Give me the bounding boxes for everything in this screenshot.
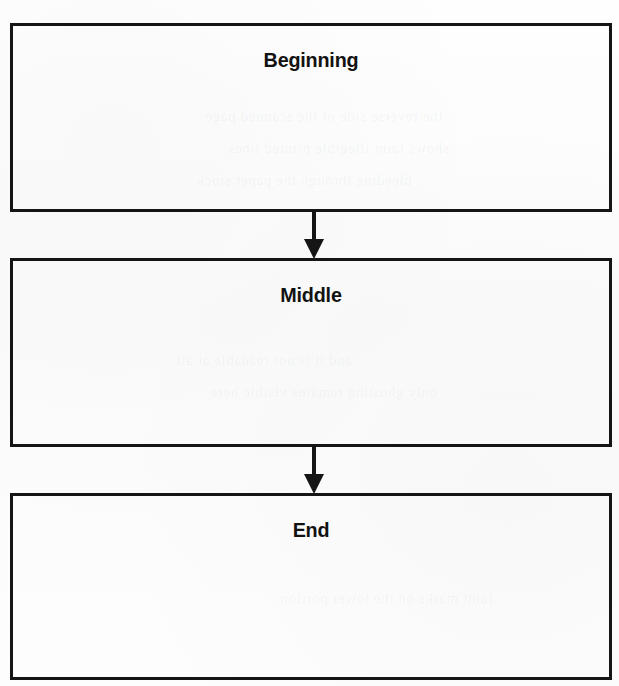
flow-node-end-label: End [31, 518, 591, 542]
flow-node-beginning-label: Beginning [31, 48, 591, 72]
flow-node-middle[interactable]: Middle [10, 258, 612, 447]
flow-node-beginning[interactable]: Beginning [10, 23, 612, 212]
flowchart-page: the reverse side of the scanned page sho… [0, 0, 619, 686]
flow-arrow-middle-to-end [304, 444, 324, 496]
flow-node-end[interactable]: End [10, 493, 612, 680]
flow-arrow-beginning-to-middle [304, 209, 324, 261]
flow-node-middle-label: Middle [31, 283, 591, 307]
